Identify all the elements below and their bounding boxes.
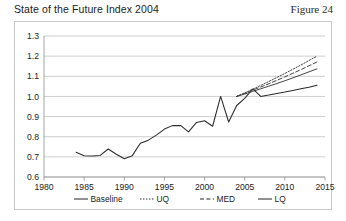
y-tick-label: 1.1 bbox=[27, 71, 39, 81]
legend-label-baseline: Baseline bbox=[91, 194, 123, 204]
x-tick-label: 1980 bbox=[34, 182, 53, 192]
line-chart: 0.60.70.80.91.01.11.21.3 198019851990199… bbox=[0, 0, 346, 221]
series-line-lq bbox=[237, 69, 317, 97]
x-tick-label: 2015 bbox=[315, 182, 334, 192]
y-axis-tick-labels: 0.60.70.80.91.01.11.21.3 bbox=[27, 31, 39, 182]
x-tick-label: 1990 bbox=[115, 182, 134, 192]
x-tick-label: 2005 bbox=[235, 182, 254, 192]
y-tick-label: 1.2 bbox=[27, 51, 39, 61]
x-tick-label: 2010 bbox=[275, 182, 294, 192]
y-tick-label: 1.0 bbox=[27, 92, 39, 102]
y-tick-label: 0.9 bbox=[27, 112, 39, 122]
chart-legend: BaselineUQMEDLQ bbox=[74, 194, 286, 204]
x-tick-label: 1995 bbox=[155, 182, 174, 192]
data-series-group bbox=[76, 56, 317, 159]
x-axis-tick-labels: 19801985199019952000200520102015 bbox=[34, 182, 334, 192]
legend-label-med: MED bbox=[217, 194, 236, 204]
y-tick-label: 0.8 bbox=[27, 132, 39, 142]
x-tick-label: 1985 bbox=[75, 182, 94, 192]
y-tick-label: 0.7 bbox=[27, 152, 39, 162]
figure-container: State of the Future Index 2004 Figure 24… bbox=[0, 0, 346, 221]
x-tick-label: 2000 bbox=[195, 182, 214, 192]
legend-label-uq: UQ bbox=[157, 194, 170, 204]
axis-lines bbox=[44, 36, 325, 181]
legend-label-lq: LQ bbox=[275, 194, 287, 204]
y-tick-label: 1.3 bbox=[27, 31, 39, 41]
